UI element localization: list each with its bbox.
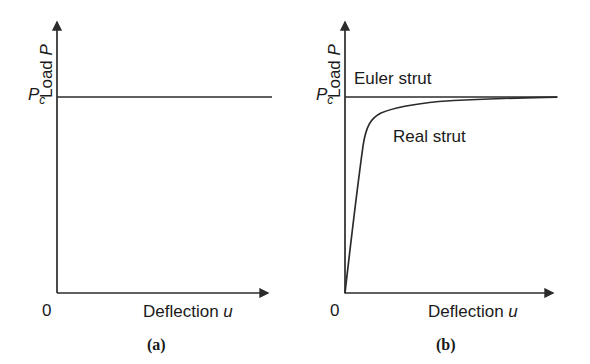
x-axis-title-symbol-b: u <box>508 302 517 321</box>
panel-caption-a: (a) <box>147 336 166 354</box>
panel-caption-b: (b) <box>436 336 456 354</box>
panel-b: Load P Pc Euler strut Real strut 0 Defle… <box>295 0 590 364</box>
critical-load-symbol-b: P <box>316 85 327 104</box>
x-axis-title-symbol-a: u <box>223 302 232 321</box>
critical-load-subscript-a: c <box>39 93 45 107</box>
figure-root: Load P Pc 0 Deflection u (a) <box>0 0 590 364</box>
x-axis-title-b: Deflection u <box>428 303 518 320</box>
x-axis-title-text-a: Deflection <box>143 302 223 321</box>
y-axis-title-symbol-a: P <box>37 44 56 55</box>
x-axis-title-text-b: Deflection <box>428 302 508 321</box>
panel-a: Load P Pc 0 Deflection u (a) <box>0 0 295 364</box>
x-axis-title-a: Deflection u <box>143 303 233 320</box>
origin-label-a: 0 <box>42 302 51 319</box>
critical-load-subscript-b: c <box>327 93 333 107</box>
y-axis-title-symbol-b: P <box>325 44 344 55</box>
euler-strut-label-b: Euler strut <box>354 70 431 87</box>
critical-load-symbol-a: P <box>28 85 39 104</box>
critical-load-label-a: Pc <box>28 86 45 106</box>
real-strut-label-b: Real strut <box>393 128 466 145</box>
critical-load-label-b: Pc <box>316 86 333 106</box>
origin-label-b: 0 <box>330 302 339 319</box>
